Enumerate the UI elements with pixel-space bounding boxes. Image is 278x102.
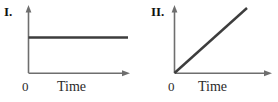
panel-one-origin-label: 0 bbox=[22, 80, 29, 93]
y-axis-arrowhead bbox=[172, 5, 178, 13]
y-axis-arrowhead bbox=[26, 5, 32, 13]
panel-two-origin-label: 0 bbox=[168, 80, 175, 93]
two-panel-graph-figure: I. 0 Time II. 0 Time bbox=[0, 0, 278, 102]
x-axis-arrowhead bbox=[122, 70, 130, 76]
x-axis-arrowhead bbox=[264, 70, 272, 76]
panel-two: II. 0 Time bbox=[139, 0, 278, 102]
increasing-line-curve bbox=[175, 8, 248, 73]
panel-two-x-axis-label: Time bbox=[198, 80, 227, 94]
panel-one: I. 0 Time bbox=[0, 0, 139, 102]
panel-one-x-axis-label: Time bbox=[57, 80, 86, 94]
